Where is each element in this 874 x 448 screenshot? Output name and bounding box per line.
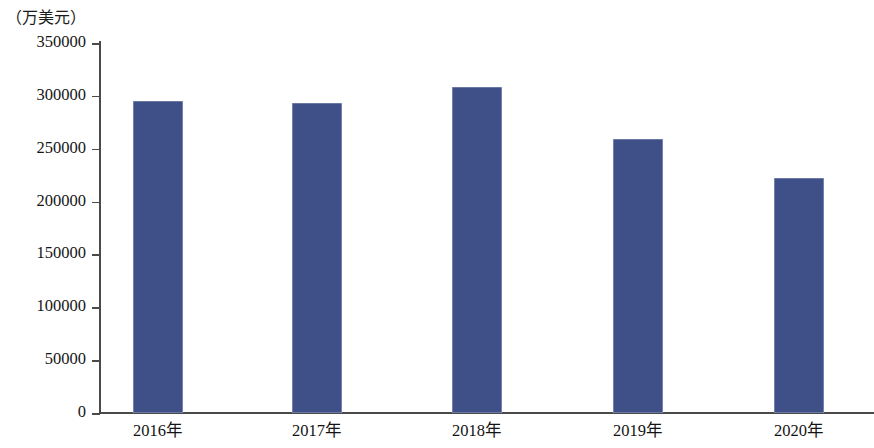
x-axis-label-2019年: 2019年 [588,421,688,441]
y-axis-tick-label: 200000 [0,193,86,210]
paper-texture [0,0,874,448]
y-axis-tick-mark [92,43,100,45]
y-axis-tick-label: 250000 [0,140,86,157]
y-axis-tick-label: 100000 [0,298,86,315]
bar-2017年 [292,103,342,413]
y-axis-tick-mark [92,254,100,256]
y-axis-tick-mark [92,307,100,309]
y-axis-tick-mark [92,96,100,98]
y-axis-tick-label: 300000 [0,87,86,104]
x-axis-label-2017年: 2017年 [267,421,367,441]
bar-2020年 [774,178,824,413]
y-axis-tick-label: 350000 [0,34,86,51]
bar-chart: （万美元） 0500001000001500002000002500003000… [0,0,874,448]
y-axis-unit-label: （万美元） [6,4,86,28]
y-axis-tick-mark [92,149,100,151]
y-axis-tick-label: 50000 [0,351,86,368]
bar-2016年 [133,101,183,413]
x-axis-label-2016年: 2016年 [108,421,208,441]
x-axis-label-2020年: 2020年 [749,421,849,441]
y-axis-tick-mark [92,360,100,362]
y-axis-tick-mark [92,202,100,204]
bar-2019年 [613,139,663,413]
y-axis-tick-mark [92,413,100,415]
y-axis-tick-label: 0 [0,404,86,421]
y-axis-tick-label: 150000 [0,245,86,262]
bar-2018年 [452,87,502,413]
x-axis-label-2018年: 2018年 [427,421,527,441]
